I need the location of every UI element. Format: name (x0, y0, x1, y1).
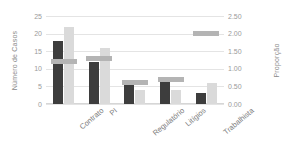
bar-light (171, 90, 181, 104)
bar-dark (160, 79, 170, 104)
proportion-marker (86, 56, 112, 61)
proportion-marker (122, 80, 148, 85)
bar-dark (124, 83, 134, 104)
y-axis-right-ticks: 0.000.501.001.502.002.50 (228, 16, 270, 104)
bar-dark (89, 62, 99, 104)
proportion-marker (158, 77, 184, 82)
bar-light (207, 83, 217, 104)
y-axis-right-tick-label: 2.50 (228, 13, 268, 20)
x-axis-tick-label: Contrato (78, 106, 106, 131)
bar-group (153, 16, 189, 104)
bar-light (135, 90, 145, 104)
x-axis-tick-label: Regulatório (151, 106, 186, 138)
x-axis-tick-label: PI (108, 106, 119, 117)
y-axis-left-ticks: 0510152025 (0, 16, 42, 104)
bar-group (82, 16, 118, 104)
bar-group (117, 16, 153, 104)
gridline (46, 104, 224, 105)
chart-container: Número de Casos Proporção 0510152025 0.0… (0, 0, 287, 152)
plot-area (46, 16, 224, 104)
y-axis-left-tick-label: 5 (2, 83, 42, 90)
y-axis-right-tick-label: 2.00 (228, 30, 268, 37)
bar-group (46, 16, 82, 104)
proportion-marker (193, 31, 219, 36)
y-axis-left-tick-label: 20 (2, 30, 42, 37)
bar-dark (196, 93, 206, 104)
y-axis-right-tick-label: 1.00 (228, 65, 268, 72)
y-axis-right-tick-label: 1.50 (228, 48, 268, 55)
y-axis-left-tick-label: 10 (2, 65, 42, 72)
y-axis-right-title: Proporção (273, 21, 280, 101)
bar-dark (53, 41, 63, 104)
bar-group (188, 16, 224, 104)
x-axis-category-labels: ContratoPIRegulatórioLitígiosTrabalhista (46, 106, 224, 152)
y-axis-right-tick-label: 0.50 (228, 83, 268, 90)
proportion-marker (51, 59, 77, 64)
y-axis-left-tick-label: 25 (2, 13, 42, 20)
y-axis-left-tick-label: 0 (2, 101, 42, 108)
y-axis-left-tick-label: 15 (2, 48, 42, 55)
x-axis-tick-label: Trabalhista (222, 106, 256, 137)
bar-light (64, 27, 74, 104)
x-axis-tick-label: Litígios (183, 106, 207, 128)
